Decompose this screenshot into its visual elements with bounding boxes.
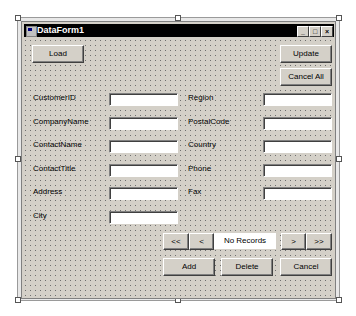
contactname-label: ContactName <box>33 140 82 149</box>
update-button[interactable]: Update <box>280 45 332 63</box>
delete-button[interactable]: Delete <box>221 258 273 276</box>
title-bar[interactable]: DataForm1 _ □ × <box>24 24 334 37</box>
contacttitle-label: ContactTitle <box>33 164 75 173</box>
companyname-input[interactable] <box>109 117 178 130</box>
add-button[interactable]: Add <box>163 258 215 276</box>
close-button[interactable]: × <box>321 26 333 37</box>
contacttitle-input[interactable] <box>109 164 178 177</box>
country-input[interactable] <box>263 140 332 153</box>
cancel-button[interactable]: Cancel <box>280 258 332 276</box>
region-input[interactable] <box>263 93 332 106</box>
cancel-all-button[interactable]: Cancel All <box>280 68 332 86</box>
customerid-input[interactable] <box>109 93 178 106</box>
resize-handle-top-right[interactable] <box>336 15 342 21</box>
next-record-button[interactable]: > <box>281 233 306 250</box>
load-button[interactable]: Load <box>32 45 84 63</box>
address-input[interactable] <box>109 187 178 200</box>
last-record-button[interactable]: >> <box>306 233 332 250</box>
maximize-button[interactable]: □ <box>309 26 321 37</box>
postalcode-input[interactable] <box>263 117 332 130</box>
previous-record-button[interactable]: < <box>189 233 214 250</box>
minimize-button[interactable]: _ <box>297 26 309 37</box>
phone-label: Phone <box>188 164 211 173</box>
phone-input[interactable] <box>263 164 332 177</box>
window-title: DataForm1 <box>37 25 84 35</box>
form-icon <box>26 26 37 37</box>
resize-handle-bottom-right[interactable] <box>336 297 342 303</box>
fax-label: Fax <box>188 187 201 196</box>
city-label: City <box>33 211 47 220</box>
resize-handle-right[interactable] <box>336 156 342 162</box>
first-record-button[interactable]: << <box>163 233 189 250</box>
address-label: Address <box>33 187 62 196</box>
companyname-label: CompanyName <box>33 117 89 126</box>
country-label: Country <box>188 140 216 149</box>
fax-input[interactable] <box>263 187 332 200</box>
record-status-label: No Records <box>214 233 276 249</box>
region-label: Region <box>188 93 213 102</box>
city-input[interactable] <box>109 211 178 224</box>
contactname-input[interactable] <box>109 140 178 153</box>
postalcode-label: PostalCode <box>188 117 229 126</box>
customerid-label: CustomerID <box>33 93 76 102</box>
